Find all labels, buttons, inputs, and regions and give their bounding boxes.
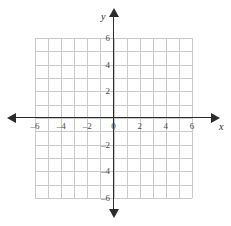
x-tick-label: 4 — [157, 122, 175, 131]
grid-line-vertical — [192, 38, 193, 198]
y-tick-label: 2 — [92, 87, 110, 96]
x-axis-line — [14, 117, 217, 118]
x-tick-label: –6 — [26, 122, 44, 131]
y-tick-label: –6 — [92, 194, 110, 203]
arrow-left-icon — [7, 113, 16, 123]
x-axis-label: x — [219, 122, 223, 132]
arrow-up-icon — [109, 8, 119, 17]
arrow-down-icon — [109, 209, 119, 218]
x-tick-label: 6 — [183, 122, 201, 131]
y-tick-label: –2 — [92, 141, 110, 150]
x-tick-label: 0 — [105, 122, 123, 131]
y-axis-line — [113, 16, 114, 214]
x-tick-label: 2 — [131, 122, 149, 131]
y-tick-label: 4 — [92, 61, 110, 70]
y-axis-label: y — [101, 12, 105, 22]
y-tick-label: 6 — [92, 34, 110, 43]
coordinate-plane-graph: –6–4–20246 642–2–4–6 x y — [0, 0, 231, 226]
x-tick-label: –2 — [78, 122, 96, 131]
y-tick-label: –4 — [92, 167, 110, 176]
x-tick-label: –4 — [52, 122, 70, 131]
